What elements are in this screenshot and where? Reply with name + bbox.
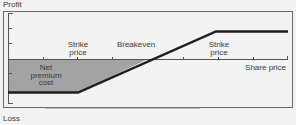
strike-price-2-label: Strike price [209,41,229,56]
net-premium-loss-area [8,59,148,92]
strike-price-1-label: Strike price [68,41,88,56]
y-axis-loss-label: Loss [3,115,20,123]
x-axis-share-price-label: Share price [245,64,286,72]
net-premium-cost-label: Net premium cost [30,64,61,87]
breakeven-label: Breakeven [117,41,155,49]
y-axis-profit-label: Profit [3,1,22,9]
